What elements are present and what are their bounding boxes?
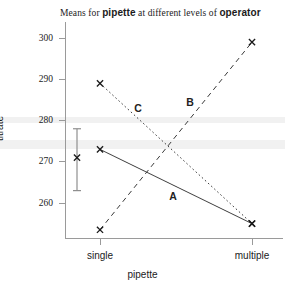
data-point-A-single bbox=[97, 146, 103, 152]
series-label-B: B bbox=[186, 96, 194, 108]
data-point-B-multiple bbox=[249, 39, 255, 45]
error-bar bbox=[73, 129, 81, 191]
series-B bbox=[97, 39, 255, 233]
series-label-C: C bbox=[134, 102, 142, 114]
data-point-C-single bbox=[97, 80, 103, 86]
data-point-B-single bbox=[97, 227, 103, 233]
series-A bbox=[97, 146, 255, 226]
interaction-plot: Means for pipette at different levels of… bbox=[0, 0, 285, 292]
data-point-C-multiple bbox=[249, 221, 255, 227]
series-label-A: A bbox=[169, 190, 177, 202]
series-overlay bbox=[0, 0, 285, 292]
series-C bbox=[97, 80, 255, 226]
